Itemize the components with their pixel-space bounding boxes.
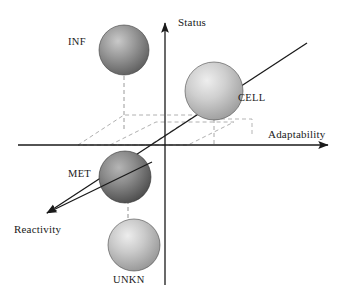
diagram-svg [0,0,345,293]
projection-plane-right [110,122,234,145]
sphere-inf[interactable] [99,25,149,75]
sphere-met[interactable] [99,151,151,203]
axis-label-status: Status [178,16,206,28]
axis-label-adaptability: Adaptability [268,128,325,140]
projection-plane-left [78,115,196,145]
sphere-cell[interactable] [185,62,243,120]
sphere-unkn[interactable] [108,219,160,271]
sphere-label-met: MET [68,168,91,179]
sphere-label-cell: CELL [238,92,265,103]
axis-label-reactivity: Reactivity [14,223,61,235]
sphere-label-unkn: UNKN [113,274,145,285]
diagram-canvas: Status Adaptability Reactivity INF CELL … [0,0,345,293]
sphere-label-inf: INF [68,36,86,47]
